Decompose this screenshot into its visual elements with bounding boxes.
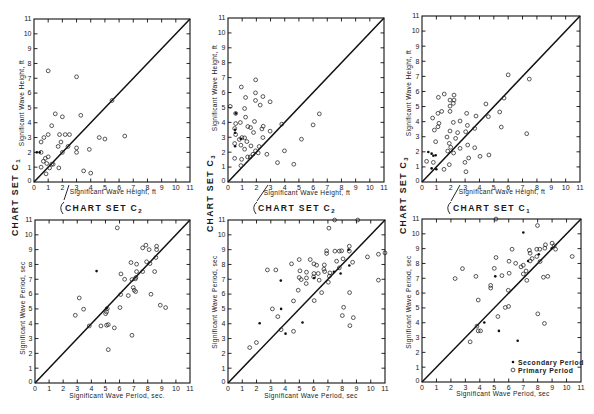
data-point-circle	[239, 85, 243, 89]
data-point-circle	[245, 140, 249, 144]
data-point-dot	[527, 260, 530, 263]
data-point-dot	[522, 231, 525, 234]
data-point-circle	[256, 151, 260, 155]
series-primary-period	[73, 226, 167, 352]
data-point-circle	[158, 303, 162, 307]
y-tick-label: 0	[222, 177, 226, 184]
data-point-circle	[484, 102, 488, 106]
x-tick-label: 9	[160, 385, 164, 392]
data-point-circle	[530, 257, 534, 261]
data-point-circle	[135, 270, 139, 274]
data-point-circle	[341, 257, 345, 261]
data-point-circle	[431, 116, 435, 120]
y-tick-label: 11	[412, 12, 419, 19]
data-point-circle	[510, 247, 514, 251]
data-point-circle	[239, 164, 243, 168]
data-point-circle	[57, 166, 61, 170]
data-point-circle	[542, 275, 546, 279]
x-tick-label: 9	[550, 384, 554, 391]
data-point-circle	[436, 95, 440, 99]
data-point-circle	[243, 107, 247, 111]
series-secondary-period	[95, 270, 108, 310]
data-point-circle	[292, 329, 296, 333]
chart-set-label-middle: CHART SET C3	[205, 154, 216, 232]
data-point-circle	[327, 226, 331, 230]
x-tick-label: 2	[449, 184, 453, 191]
data-point-circle	[73, 313, 77, 317]
data-point-dot	[430, 152, 433, 155]
data-point-dot	[348, 264, 351, 267]
data-point-circle	[244, 96, 248, 100]
data-point-circle	[244, 115, 248, 119]
scatter-plot-5: 0123456789101112345678910110Significant …	[211, 216, 389, 400]
x-tick-label: 1	[46, 184, 50, 191]
data-point-circle	[448, 98, 452, 102]
series-secondary-period	[483, 231, 553, 342]
data-point-circle	[308, 258, 312, 262]
data-point-circle	[135, 262, 139, 266]
data-point-circle	[87, 148, 91, 152]
data-point-circle	[130, 333, 134, 337]
data-point-circle	[304, 282, 308, 286]
data-point-dot	[483, 321, 486, 324]
x-tick-label: 11	[186, 385, 193, 392]
equality-line	[228, 220, 385, 383]
data-point-circle	[292, 299, 296, 303]
data-point-circle	[268, 100, 272, 104]
y-tick-label: 10	[218, 231, 226, 238]
data-point-circle	[474, 274, 478, 278]
x-tick-label: 0	[420, 184, 424, 191]
y-tick-label: 9	[222, 246, 226, 253]
data-point-circle	[312, 299, 316, 303]
data-point-circle	[494, 256, 498, 260]
y-tick-label: 7	[28, 75, 32, 82]
data-point-circle	[248, 346, 252, 350]
data-point-circle	[82, 169, 86, 173]
data-point-circle	[39, 165, 43, 169]
x-tick-label: 11	[577, 384, 584, 391]
y-tick-label: 8	[416, 58, 420, 65]
data-point-circle	[283, 149, 287, 153]
data-point-dot	[38, 151, 41, 154]
y-tick-label: 4	[28, 119, 32, 126]
equality-line	[35, 220, 190, 383]
x-tick-label: 2	[254, 184, 258, 191]
y-tick-label: 1	[416, 163, 420, 170]
data-point-circle	[543, 322, 547, 326]
data-point-circle	[233, 156, 237, 160]
arrow-set-label-left: CHART SET C2	[65, 203, 143, 214]
y-axis-label: Significant Wave Period, sec	[211, 255, 219, 349]
data-point-circle	[521, 272, 525, 276]
x-tick-label: 0	[226, 385, 230, 392]
x-axis-label: Significant Wave Period, sec	[456, 390, 550, 398]
data-point-circle	[451, 120, 455, 124]
x-axis-label: Significant Wave Height, ft	[264, 189, 351, 197]
data-point-circle	[239, 143, 243, 147]
data-point-circle	[478, 154, 482, 158]
data-point-circle	[323, 270, 327, 274]
y-tick-label: 4	[222, 320, 226, 327]
equality-line	[422, 16, 580, 182]
data-point-circle	[46, 133, 50, 137]
data-point-circle	[75, 150, 79, 154]
data-point-circle	[570, 255, 574, 259]
data-point-circle	[527, 77, 531, 81]
y-tick-label: 4	[416, 319, 420, 326]
x-tick-label: 1	[434, 184, 438, 191]
x-tick-label: 10	[367, 385, 375, 392]
data-point-dot	[280, 279, 283, 282]
y-tick-label: 2	[28, 149, 32, 156]
scatter-plot-3: 0123456789101112345678910110Significant …	[405, 12, 584, 196]
data-point-dot	[430, 167, 433, 170]
data-point-circle	[432, 128, 436, 132]
data-point-circle	[536, 312, 540, 316]
x-tick-label: 0	[32, 184, 36, 191]
data-point-circle	[50, 124, 54, 128]
legend-primary-label: Primary Period	[518, 367, 573, 375]
data-point-circle	[434, 140, 438, 144]
data-point-dot	[427, 151, 430, 154]
data-point-circle	[550, 241, 554, 245]
data-point-circle	[257, 145, 261, 149]
data-point-circle	[233, 142, 237, 146]
data-point-circle	[252, 131, 256, 135]
